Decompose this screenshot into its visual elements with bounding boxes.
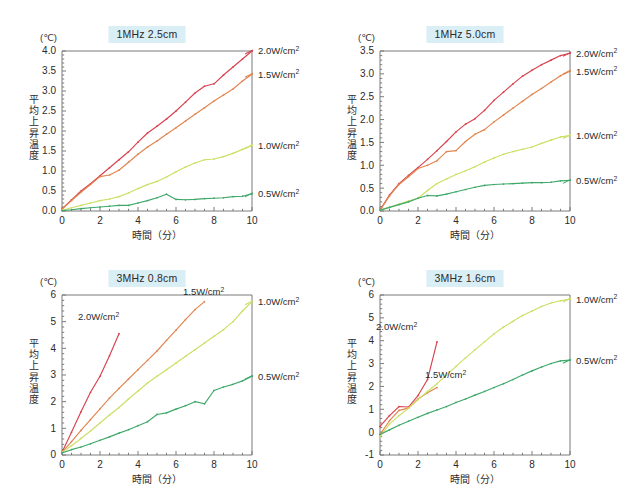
series-point	[541, 142, 543, 144]
series-point	[550, 302, 552, 304]
series-label-0.5W/cm2: 0.5W/cm2	[563, 175, 617, 186]
y-axis-label-char: 均	[347, 105, 357, 116]
series-point	[446, 178, 448, 180]
series-point	[550, 59, 552, 61]
x-tick-label: 10	[564, 459, 576, 470]
series-point	[223, 94, 225, 96]
svg-text:1.5W/cm2: 1.5W/cm2	[425, 369, 466, 380]
series-point	[474, 118, 476, 120]
svg-text:0.5W/cm2: 0.5W/cm2	[258, 371, 299, 382]
series-point	[436, 387, 438, 389]
series-point	[166, 339, 168, 341]
series-line-0.5W/cm2	[380, 180, 570, 210]
y-tick-label: 5	[368, 312, 374, 323]
series-line-1.5W/cm2	[62, 302, 205, 453]
series-label-1.0W/cm2: 1.0W/cm2	[245, 140, 299, 151]
series-line-0.5W/cm2	[380, 360, 570, 434]
y-tick-label: 2.5	[42, 105, 56, 116]
series-point	[398, 410, 400, 412]
svg-text:1.0W/cm2: 1.0W/cm2	[258, 296, 299, 307]
y-axis-label-char: 度	[29, 393, 39, 405]
series-point	[408, 201, 410, 203]
x-tick-label: 0	[59, 459, 65, 470]
series-point	[531, 182, 533, 184]
y-tick-label: 0.0	[360, 205, 374, 216]
series-point	[204, 159, 206, 161]
series-point	[398, 424, 400, 426]
chart-title: 3MHz 0.8cm	[117, 272, 178, 284]
series-point	[99, 375, 101, 377]
x-tick-label: 8	[211, 215, 217, 226]
series-point	[166, 118, 168, 120]
y-tick-label: 4	[50, 343, 56, 354]
series-point	[194, 309, 196, 311]
y-tick-label: 6	[368, 289, 374, 300]
series-point	[118, 196, 120, 198]
y-tick-label: 0.0	[42, 205, 56, 216]
y-tick-label: 2.5	[360, 91, 374, 102]
series-point	[223, 74, 225, 76]
x-tick-label: 4	[135, 459, 141, 470]
series-point	[560, 180, 562, 182]
series-point	[541, 182, 543, 184]
x-tick-label: 0	[377, 459, 383, 470]
series-point	[213, 158, 215, 160]
svg-text:2.0W/cm2: 2.0W/cm2	[258, 45, 299, 56]
series-point	[493, 184, 495, 186]
series-point	[128, 429, 130, 431]
series-point	[156, 375, 158, 377]
y-axis-label-char: 昇	[347, 128, 357, 139]
series-point	[493, 157, 495, 159]
y-tick-label: 2	[368, 381, 374, 392]
series-point	[503, 326, 505, 328]
y-tick-label: 1	[368, 404, 374, 415]
series-point	[436, 383, 438, 385]
series-point	[232, 321, 234, 323]
series-point	[128, 161, 130, 163]
series-point	[118, 407, 120, 409]
y-axis-label-char: 温	[29, 139, 39, 150]
series-point	[232, 88, 234, 90]
series-point	[80, 208, 82, 210]
series-point	[531, 69, 533, 71]
y-axis-label-char: 均	[347, 349, 357, 360]
x-tick-label: 2	[97, 459, 103, 470]
series-point	[175, 362, 177, 364]
series-point	[512, 151, 514, 153]
series-point	[90, 207, 92, 209]
series-point	[185, 199, 187, 201]
series-label-1.5W/cm2: 1.5W/cm2	[425, 369, 466, 380]
series-point	[109, 198, 111, 200]
series-line-1.5W/cm2	[380, 71, 570, 210]
series-point	[389, 415, 391, 417]
series-point	[427, 164, 429, 166]
series-point	[436, 195, 438, 197]
figure-grid: 1MHz 2.5cm(℃)0.00.51.01.52.02.53.03.54.0…	[0, 0, 636, 488]
series-point	[204, 198, 206, 200]
series-point	[90, 391, 92, 393]
series-point	[455, 150, 457, 152]
x-tick-label: 2	[97, 215, 103, 226]
series-point	[512, 83, 514, 85]
series-point	[128, 378, 130, 380]
series-point	[232, 196, 234, 198]
series-point	[204, 342, 206, 344]
y-tick-label: 0	[368, 427, 374, 438]
x-tick-label: 6	[491, 215, 497, 226]
y-tick-label: 3	[50, 369, 56, 380]
series-point	[109, 414, 111, 416]
series-point	[398, 184, 400, 186]
series-point	[109, 174, 111, 176]
y-tick-label: 4.0	[42, 45, 56, 56]
series-point	[166, 412, 168, 414]
series-point	[455, 365, 457, 367]
series-point	[484, 129, 486, 131]
series-point	[503, 183, 505, 185]
series-point	[512, 107, 514, 109]
series-point	[99, 439, 101, 441]
series-point	[166, 133, 168, 135]
series-point	[436, 341, 438, 343]
series-point	[474, 186, 476, 188]
chart-svg-0: 1MHz 2.5cm(℃)0.00.51.01.52.02.53.03.54.0…	[0, 0, 318, 244]
series-point	[71, 209, 73, 211]
